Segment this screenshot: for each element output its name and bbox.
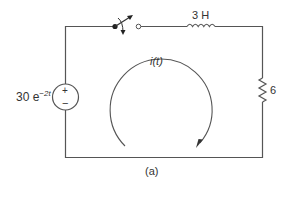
switch-action-arrow-icon bbox=[121, 30, 126, 35]
inductor bbox=[187, 24, 215, 26]
resistor-label: 6 bbox=[270, 85, 276, 96]
resistor bbox=[259, 78, 266, 102]
switch-blade-arrow-icon bbox=[127, 15, 133, 20]
wire-inductor-to-resistor bbox=[215, 27, 263, 79]
inductor-coils bbox=[187, 24, 215, 26]
switch[interactable] bbox=[112, 15, 140, 35]
wire-left-top bbox=[66, 27, 116, 85]
source-plus-sign: + bbox=[62, 86, 68, 96]
source-label: 30 e−2t bbox=[16, 91, 51, 103]
current-loop bbox=[110, 59, 212, 148]
switch-action-arc bbox=[118, 18, 123, 32]
circuit-wires bbox=[66, 27, 263, 158]
wire-bottom bbox=[66, 102, 263, 158]
source-minus-sign: − bbox=[62, 98, 68, 109]
figure-caption: (a) bbox=[145, 166, 158, 177]
inductor-label: 3 H bbox=[192, 10, 209, 21]
resistor-zigzag bbox=[259, 78, 266, 102]
current-arc bbox=[110, 59, 212, 146]
source-label-base: 30 e bbox=[16, 90, 39, 104]
current-arrow-icon bbox=[196, 139, 203, 148]
switch-contact-open bbox=[136, 24, 141, 29]
source-label-exponent: −2t bbox=[39, 89, 50, 98]
current-label: i(t) bbox=[150, 56, 163, 67]
